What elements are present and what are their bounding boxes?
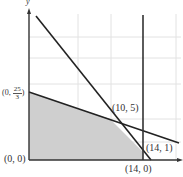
point-label-0-25-3-prefix: (0,: [2, 88, 11, 97]
point-label-0-25-3-suffix: ): [22, 88, 25, 97]
y-axis-arrow-icon: [27, 8, 31, 14]
x-axis-arrow-icon: [177, 158, 183, 162]
fraction-denominator: 3: [13, 94, 22, 101]
point-label-14-1: (14, 1): [146, 143, 173, 153]
point-label-14-0: (14, 0): [125, 164, 152, 174]
point-label-10-5: (10, 5): [112, 103, 139, 113]
point-label-0-25-3: (0, 25 3 ): [2, 86, 24, 101]
y-axis-label: y: [26, 0, 30, 6]
point-label-origin: (0, 0): [4, 154, 26, 164]
fraction-25-3: 25 3: [13, 86, 22, 101]
